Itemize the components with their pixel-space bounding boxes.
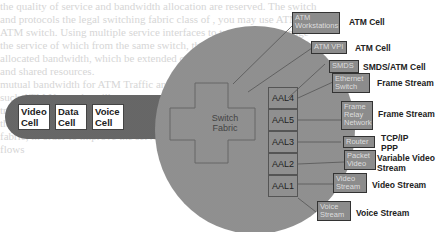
atm-vpi-output: ATM Cell [355,43,391,53]
ethernet-switch-device: Ethernet Switch [332,73,370,93]
frame-relay-device: Frame Relay Network [341,101,373,130]
aal2-box: AAL2 [268,153,298,175]
ethernet-switch-output: Frame Stream [377,78,434,88]
frame-relay-output: Frame Stream [378,109,435,119]
aal4-box: AAL4 [268,87,298,109]
switch-fabric-label: Switch Fabric [200,113,250,133]
atm-workstations-device: ATM Workstations [292,12,340,34]
aal3-box: AAL3 [268,131,298,153]
smds-output: SMDS/ATM Cell [363,62,426,72]
atm-workstations-output: ATM Cell [349,17,385,27]
packet-video-device: Packet Video [344,150,376,170]
smds-device: SMDS [329,60,359,73]
aal5-box: AAL5 [268,109,298,131]
voice-stream-output: Voice Stream [356,208,409,218]
video-stream-device: Video Stream [333,173,367,193]
packet-video-output: Variable Video Stream [377,153,437,173]
voice-stream-device: Voice Stream [317,201,351,221]
router-device: Router [343,136,375,148]
video-stream-output: Video Stream [372,180,426,190]
atm-vpi-device: ATM VPI [311,41,347,54]
aal1-box: AAL1 [268,175,298,197]
router-output: TCP/IP PPP [381,133,411,153]
